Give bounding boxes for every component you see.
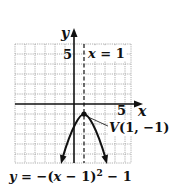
- axis-of-symmetry-label: x = 1: [87, 46, 125, 61]
- vertex-label: V(1, −1): [109, 120, 169, 135]
- y-tick-label: 5: [63, 47, 72, 62]
- x-axis-label: x: [137, 103, 147, 119]
- parabola-figure: y x 5 5 x = 1 V(1, −1) y = −(x − 1)2 − 1: [0, 0, 175, 195]
- y-axis-arrow-icon: [71, 28, 78, 37]
- parabola-curve-right: [84, 114, 106, 158]
- x-tick-label: 5: [117, 103, 126, 118]
- curve-arrow-right-icon: [102, 155, 109, 165]
- vertex-point: [81, 111, 86, 116]
- vertex-leader-line: [86, 116, 110, 127]
- y-axis-label: y: [60, 25, 70, 41]
- curve-arrow-left-icon: [60, 155, 67, 165]
- equation-label: y = −(x − 1)2 − 1: [8, 168, 132, 184]
